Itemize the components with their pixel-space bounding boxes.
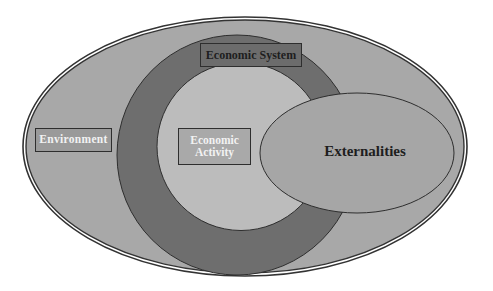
- economic-system-label: Economic System: [206, 49, 296, 61]
- environment-label: Environment: [39, 134, 107, 146]
- economic-system-label-box: Economic System: [200, 43, 302, 67]
- environment-label-box: Environment: [35, 128, 112, 152]
- economic-activity-label-line1: Economic: [190, 135, 239, 147]
- economic-activity-label-line2: Activity: [195, 147, 234, 159]
- externalities-label: Externalities: [290, 141, 440, 161]
- economic-activity-label-box: Economic Activity: [178, 128, 251, 165]
